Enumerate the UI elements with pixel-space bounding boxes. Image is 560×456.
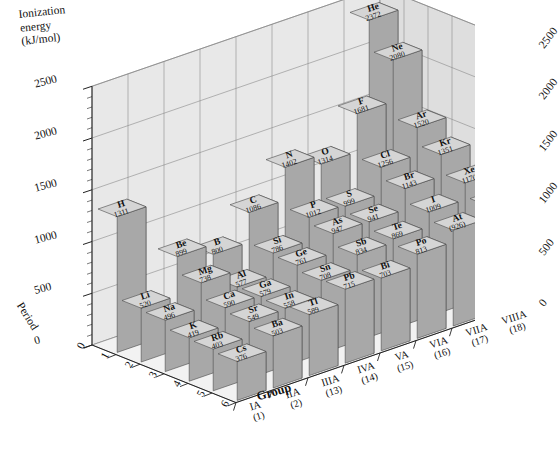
group-axis: IA(1)IIA(2)IIIA(13)IVA(14)VA(15)VIA(16)V… <box>130 350 475 440</box>
group-tick-VA: VA(15) <box>392 348 415 374</box>
y-tick-right-0: 0 <box>536 297 549 309</box>
group-tick-VIIIA: VIIIA(18) <box>500 308 531 337</box>
y-tick-left-2500: 2500 <box>33 72 58 90</box>
period-tick-1: 1 <box>98 350 111 360</box>
y-tick-left-2000: 2000 <box>33 124 58 142</box>
y-tick-right-1500: 1500 <box>536 128 560 154</box>
y-tick-right-2000: 2000 <box>536 76 560 102</box>
y-tick-right-500: 500 <box>536 236 556 257</box>
group-tick-IIIA: IIIA(13) <box>320 372 344 399</box>
y-tick-left-1500: 1500 <box>33 176 58 194</box>
group-tick-IVA: IVA(14) <box>356 360 379 386</box>
period-tick-0: 0 <box>74 340 87 350</box>
y-tick-right-1000: 1000 <box>536 180 560 206</box>
y-tick-right-2500: 2500 <box>536 25 560 51</box>
group-tick-number: (1) <box>251 409 265 423</box>
